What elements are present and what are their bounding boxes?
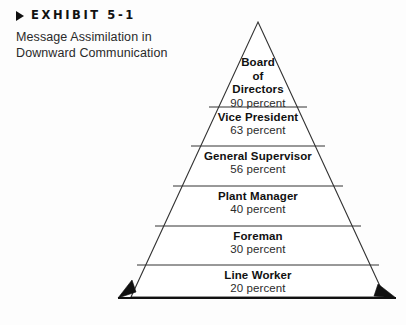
pyramid-outline-svg: [0, 0, 406, 325]
arrow-right-icon: [374, 284, 396, 298]
exhibit-figure-page: EXHIBIT 5-1 Message Assimilation in Down…: [0, 0, 406, 325]
pyramid-body: [131, 22, 385, 297]
pyramid-diagram: Board of Directors 90 percent Vice Presi…: [0, 0, 406, 325]
